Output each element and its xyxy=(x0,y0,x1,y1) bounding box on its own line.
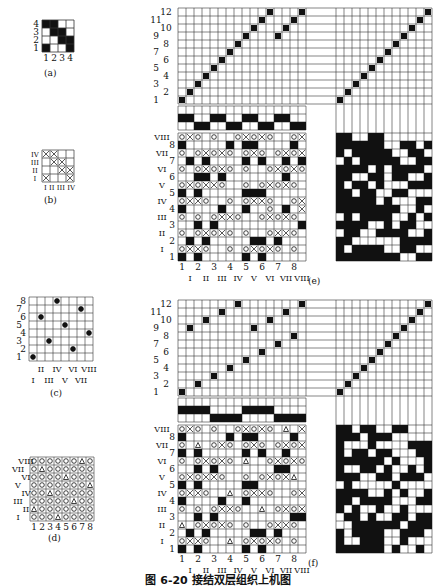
panel-b-label: (b) xyxy=(44,195,57,205)
svg-text:12: 12 xyxy=(160,7,171,17)
svg-text:II: II xyxy=(159,229,165,238)
svg-text:VI: VI xyxy=(157,165,167,174)
svg-text:1: 1 xyxy=(169,252,175,262)
svg-text:IV: IV xyxy=(158,489,167,498)
svg-text:VII: VII xyxy=(74,376,87,385)
svg-text:III: III xyxy=(217,274,226,283)
svg-text:4: 4 xyxy=(227,262,233,272)
svg-text:9: 9 xyxy=(153,323,159,333)
svg-text:VII: VII xyxy=(279,274,292,283)
svg-text:8: 8 xyxy=(20,296,26,306)
svg-text:3: 3 xyxy=(169,512,175,522)
svg-text:V: V xyxy=(158,473,165,482)
svg-text:4: 4 xyxy=(67,53,73,63)
svg-text:III: III xyxy=(31,159,40,167)
svg-text:5: 5 xyxy=(243,262,249,272)
svg-text:5: 5 xyxy=(169,188,175,198)
svg-text:2: 2 xyxy=(195,262,201,272)
svg-text:II: II xyxy=(203,274,209,283)
svg-text:1: 1 xyxy=(179,262,185,272)
loom-draft-f: 12345678910111212345678IIIIIIIVVVIVIIVII… xyxy=(145,292,436,577)
svg-text:1: 1 xyxy=(153,95,159,105)
svg-text:7: 7 xyxy=(169,156,175,166)
svg-text:V: V xyxy=(250,274,257,283)
svg-text:4: 4 xyxy=(163,71,169,81)
svg-text:8: 8 xyxy=(291,262,297,272)
svg-text:7: 7 xyxy=(169,448,175,458)
svg-text:3: 3 xyxy=(59,53,65,63)
svg-text:7: 7 xyxy=(275,554,281,564)
svg-text:5: 5 xyxy=(169,480,175,490)
svg-text:4: 4 xyxy=(169,496,175,506)
svg-text:IV: IV xyxy=(53,365,62,374)
weave-diagram-b: IIIIIIIVI II III IV xyxy=(30,148,80,188)
svg-text:4: 4 xyxy=(163,363,169,373)
symbol-diagram-d: IIIIIIIVVVIVIIVIII12345678 xyxy=(10,455,100,535)
svg-text:7: 7 xyxy=(153,339,159,349)
svg-text:8: 8 xyxy=(291,554,297,564)
svg-text:3: 3 xyxy=(153,79,159,89)
panel-a-label: (a) xyxy=(44,68,56,78)
svg-text:2: 2 xyxy=(39,522,45,532)
svg-text:6: 6 xyxy=(259,262,265,272)
svg-text:5: 5 xyxy=(243,554,249,564)
svg-text:5: 5 xyxy=(153,63,159,73)
panel-c-label: (c) xyxy=(50,388,62,398)
svg-text:3: 3 xyxy=(211,554,217,564)
svg-text:VI: VI xyxy=(68,365,78,374)
dot-diagram-c: 12345678IIIVVIVIIIIIIIVVII xyxy=(15,295,100,385)
svg-text:6: 6 xyxy=(163,55,169,65)
svg-text:4: 4 xyxy=(55,522,61,532)
weave-diagram-a: 12341234 xyxy=(30,18,80,58)
svg-text:III: III xyxy=(13,497,22,506)
svg-text:6: 6 xyxy=(169,464,175,474)
svg-text:6: 6 xyxy=(71,522,77,532)
svg-text:I: I xyxy=(16,513,19,522)
svg-text:II: II xyxy=(159,521,165,530)
svg-text:1: 1 xyxy=(43,53,49,63)
svg-text:II: II xyxy=(23,505,29,514)
svg-text:VII: VII xyxy=(11,465,24,474)
svg-text:9: 9 xyxy=(153,31,159,41)
svg-text:4: 4 xyxy=(33,19,39,29)
svg-text:8: 8 xyxy=(169,140,175,150)
svg-text:2: 2 xyxy=(51,53,57,63)
loom-draft-e: 12345678910111212345678IIIIIIIVVVIVIIVII… xyxy=(145,0,436,285)
svg-text:6: 6 xyxy=(169,172,175,182)
panel-d-label: (d) xyxy=(48,533,61,543)
svg-text:VIII: VIII xyxy=(17,457,33,466)
svg-text:VII: VII xyxy=(155,441,168,450)
svg-text:7: 7 xyxy=(153,47,159,57)
panel-f-label: (f) xyxy=(308,558,318,568)
svg-text:VI: VI xyxy=(157,457,167,466)
svg-text:I: I xyxy=(160,537,163,546)
svg-text:10: 10 xyxy=(160,23,172,33)
figure-caption: 图 6-20 接结双层组织上机图 xyxy=(0,571,436,587)
svg-text:VIII: VIII xyxy=(153,425,169,434)
svg-text:6: 6 xyxy=(163,347,169,357)
svg-text:III: III xyxy=(157,213,166,222)
svg-text:V: V xyxy=(61,376,68,385)
panel-e-label: (e) xyxy=(308,276,320,286)
svg-text:2: 2 xyxy=(169,236,175,246)
svg-text:6: 6 xyxy=(259,554,265,564)
svg-text:5: 5 xyxy=(63,522,69,532)
svg-text:I II III IV: I II III IV xyxy=(44,184,76,192)
svg-text:IV: IV xyxy=(158,197,167,206)
svg-text:VI: VI xyxy=(265,274,275,283)
svg-text:3: 3 xyxy=(169,220,175,230)
svg-text:7: 7 xyxy=(79,522,85,532)
svg-text:IV: IV xyxy=(22,489,31,498)
svg-text:VII: VII xyxy=(155,149,168,158)
svg-text:8: 8 xyxy=(169,432,175,442)
svg-text:V: V xyxy=(158,181,165,190)
svg-text:VIII: VIII xyxy=(80,365,96,374)
svg-text:I: I xyxy=(160,245,163,254)
svg-text:2: 2 xyxy=(163,87,169,97)
svg-text:IV: IV xyxy=(234,274,243,283)
svg-text:2: 2 xyxy=(163,379,169,389)
svg-text:3: 3 xyxy=(211,262,217,272)
svg-text:I: I xyxy=(31,376,34,385)
svg-text:3: 3 xyxy=(47,522,53,532)
svg-text:1: 1 xyxy=(31,522,37,532)
